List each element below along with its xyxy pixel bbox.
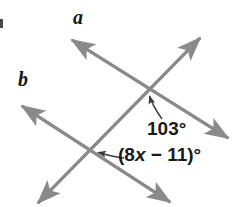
line-label-b: b <box>18 69 28 89</box>
expression-suffix: − 11)° <box>145 144 201 165</box>
geometry-figure: a b 103° (8x − 11)° <box>0 0 238 207</box>
angle-label-known: 103° <box>147 119 186 138</box>
geometry-canvas <box>0 0 238 207</box>
angle-label-expression: (8x − 11)° <box>118 145 201 164</box>
edge-artifact <box>0 19 3 28</box>
line-label-a: a <box>73 7 83 27</box>
expression-prefix: (8 <box>118 144 135 165</box>
leader-angle-known-arrow <box>150 96 163 119</box>
expression-variable: x <box>135 144 146 165</box>
